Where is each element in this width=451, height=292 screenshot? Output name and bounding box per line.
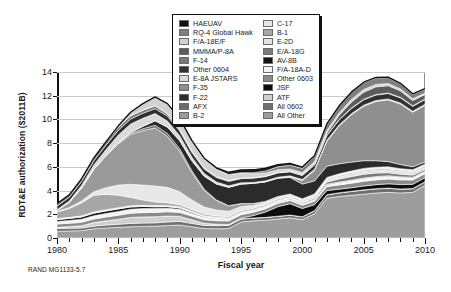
x-tick-mark [425,238,426,244]
legend-swatch-icon [179,48,189,55]
x-tick-mark [351,238,352,242]
legend-label: F/A-18E/F [193,37,226,46]
legend-label: F/A-18A-D [277,65,311,74]
legend-item[interactable]: C-17 [263,19,313,28]
legend-item[interactable]: F-22 [179,93,253,102]
x-tick-mark [167,238,168,242]
legend-item[interactable]: F-35 [179,83,253,92]
x-tick-mark [388,238,389,242]
legend-label: B-2 [193,111,204,120]
figure-root: 02468101214 1980198519901995200020052010… [0,0,451,292]
x-tick-mark [106,238,107,242]
x-tick-mark [204,238,205,242]
y-tick-label: 4 [47,186,52,196]
x-tick-mark [278,238,279,242]
legend-swatch-icon [263,38,273,45]
legend-item[interactable]: Other 0603 [263,74,313,83]
legend-label: JSF [277,83,290,92]
y-tick-label: 2 [47,209,52,219]
legend-swatch-icon [179,66,189,73]
y-tick-label: 6 [47,162,52,172]
legend-swatch-icon [263,29,273,36]
y-tick-label: 10 [42,114,52,124]
legend-swatch-icon [263,57,273,64]
legend-swatch-icon [263,48,273,55]
legend-label: C-17 [277,19,293,28]
legend-swatch-icon [263,112,273,119]
legend-item[interactable]: MMMA/P-8A [179,47,253,56]
legend-label: E/A-18G [277,47,305,56]
legend-label: AFX [193,102,207,111]
x-tick-mark [241,238,242,244]
legend-item[interactable]: F-14 [179,56,253,65]
legend-label: E-8A JSTARS [193,74,238,83]
y-tick-label: 12 [42,91,52,101]
x-tick-mark [192,238,193,242]
legend-column-left: HAEUAVRQ-4 Global HawkF/A-18E/FMMMA/P-8A… [179,19,253,120]
x-tick-mark [131,238,132,242]
legend-item[interactable]: All Other [263,111,313,120]
legend-swatch-icon [179,29,189,36]
legend-item[interactable]: HAEUAV [179,19,253,28]
legend-item[interactable]: E-8A JSTARS [179,74,253,83]
legend-item[interactable]: AV-8B [263,56,313,65]
x-tick-label: 2005 [354,245,374,255]
legend-swatch-icon [179,84,189,91]
x-tick-label: 1990 [170,245,190,255]
legend-item[interactable]: All 0602 [263,102,313,111]
legend-swatch-icon [179,38,189,45]
legend-label: All 0602 [277,102,303,111]
legend-swatch-icon [179,112,189,119]
y-tick-label: 8 [47,138,52,148]
legend-swatch-icon [263,103,273,110]
legend-item[interactable]: F/A-18E/F [179,37,253,46]
legend-label: F-35 [193,83,208,92]
legend-swatch-icon [263,20,273,27]
legend-label: ATF [277,93,290,102]
legend-label: RQ-4 Global Hawk [193,28,253,37]
legend-swatch-icon [263,94,273,101]
x-tick-mark [290,238,291,242]
x-tick-mark [143,238,144,242]
legend-swatch-icon [179,75,189,82]
legend-swatch-icon [179,20,189,27]
legend-column-right: C-17B-1E-2DE/A-18GAV-8BF/A-18A-DOther 06… [263,19,313,120]
legend-item[interactable]: E-2D [263,37,313,46]
legend-item[interactable]: Other 0604 [179,65,253,74]
legend-swatch-icon [263,84,273,91]
legend-item[interactable]: JSF [263,83,313,92]
legend-label: Other 0604 [193,65,229,74]
y-tick-label: 0 [47,233,52,243]
legend: HAEUAVRQ-4 Global HawkF/A-18E/FMMMA/P-8A… [172,14,320,125]
legend-item[interactable]: ATF [263,93,313,102]
legend-swatch-icon [179,57,189,64]
legend-item[interactable]: B-2 [179,111,253,120]
legend-label: F-22 [193,93,208,102]
x-tick-label: 2000 [292,245,312,255]
legend-label: B-1 [277,28,288,37]
y-tick-label: 14 [42,67,52,77]
y-axis-label: RDT&E authorization ($2011B) [15,72,29,238]
x-tick-mark [315,238,316,242]
x-tick-label: 1980 [47,245,67,255]
legend-swatch-icon [263,66,273,73]
x-tick-mark [94,238,95,242]
legend-item[interactable]: RQ-4 Global Hawk [179,28,253,37]
x-tick-mark [216,238,217,242]
legend-item[interactable]: F/A-18A-D [263,65,313,74]
legend-item[interactable]: AFX [179,102,253,111]
x-tick-mark [253,238,254,242]
x-tick-mark [339,238,340,242]
x-tick-mark [118,238,119,244]
x-tick-mark [57,238,58,244]
x-tick-mark [413,238,414,242]
x-tick-mark [364,238,365,244]
legend-label: E-2D [277,37,293,46]
legend-item[interactable]: B-1 [263,28,313,37]
legend-label: Other 0603 [277,74,313,83]
x-tick-label: 1985 [108,245,128,255]
legend-item[interactable]: E/A-18G [263,47,313,56]
figure-caption: RAND MG1133-5.7 [28,266,85,273]
legend-swatch-icon [263,75,273,82]
legend-swatch-icon [179,103,189,110]
